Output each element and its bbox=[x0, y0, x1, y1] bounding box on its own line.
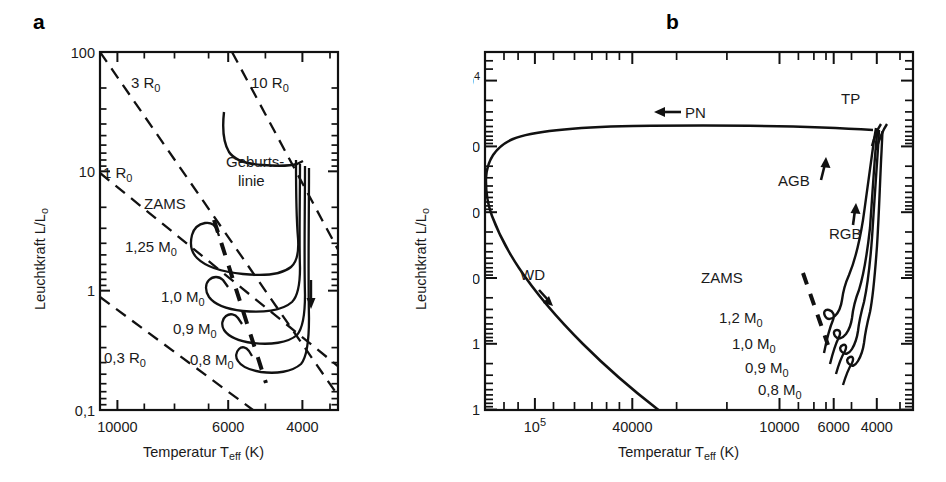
panel-b-rgb-label: RGB bbox=[829, 225, 862, 242]
panel-b: b bbox=[473, 0, 946, 482]
panel-b-xtick-4000: 4000 bbox=[861, 419, 893, 435]
panel-a-yaxis-title: Leuchtkraft L/Lo bbox=[32, 208, 50, 310]
panel-b-ytick-100: 100 bbox=[473, 205, 480, 221]
panel-a-xaxis-title-main: Temperatur T bbox=[143, 444, 229, 460]
panel-a-tick-labels: 100 10 1 0,1 10000 6000 4000 bbox=[71, 45, 319, 435]
figure-root: a bbox=[0, 0, 946, 482]
radius-line-10r-label: 10 R0 bbox=[251, 74, 289, 94]
panel-a-ytick-10: 10 bbox=[79, 164, 95, 180]
panel-b-annotations: PN WD TP AGB RGB ZAMS 1,2 M0 1,0 M0 0,9 … bbox=[520, 90, 862, 401]
panel-b-ytick-1: 1 bbox=[473, 336, 480, 352]
panel-a-mass-label-125: 1,25 M0 bbox=[125, 238, 177, 258]
panel-b-xtick-6000: 6000 bbox=[818, 419, 850, 435]
panel-b-ytick-1000: 1000 bbox=[473, 139, 480, 155]
panel-a-xaxis-title-unit: (K) bbox=[245, 444, 264, 460]
panel-b-xtick-40000: 40000 bbox=[612, 419, 652, 435]
panel-b-tp-label: TP bbox=[841, 90, 860, 107]
panel-b-yaxis-title: Leuchtkraft L/Lo bbox=[413, 208, 431, 310]
radius-line-03r-label: 0,3 R0 bbox=[104, 349, 146, 369]
birthline-label-line2: linie bbox=[238, 172, 265, 189]
radius-line-10r-path bbox=[232, 52, 424, 410]
panel-b-rgb-arrow bbox=[851, 203, 861, 225]
panel-b-ytick-10000: 104 bbox=[473, 70, 480, 89]
panel-a-plot: 100 10 1 0,1 10000 6000 4000 3 R0 10 R0 … bbox=[0, 0, 473, 482]
radius-line-1r-label: 1 R0 bbox=[103, 164, 132, 184]
panel-b-xtick-10000: 10000 bbox=[759, 419, 799, 435]
panel-a-xaxis-title-sub: eff bbox=[229, 450, 241, 462]
panel-b-agb-label: AGB bbox=[778, 172, 810, 189]
panel-a-xtick-4000: 4000 bbox=[286, 419, 318, 435]
panel-a-ytick-100: 100 bbox=[71, 45, 95, 61]
panel-b-xaxis-title-unit: (K) bbox=[720, 444, 739, 460]
panel-b-x-major-ticks bbox=[535, 52, 877, 410]
panel-b-ytick-01: 0,1 bbox=[473, 402, 480, 418]
panel-a-xaxis-title: Temperatur Teff (K) bbox=[143, 444, 264, 462]
panel-b-pn-arrow bbox=[654, 107, 681, 117]
panel-b-xaxis-title: Temperatur Teff (K) bbox=[618, 444, 739, 462]
panel-a-mass-label-10: 1,0 M0 bbox=[161, 288, 205, 308]
panel-b-yaxis-title-main: Leuchtkraft L/L bbox=[413, 214, 429, 310]
panel-b-ytick-10: 10 bbox=[473, 271, 480, 287]
panel-b-xaxis-title-main: Temperatur T bbox=[618, 444, 704, 460]
panel-b-plot: 104 1000 100 10 1 0,1 105 40000 10000 60… bbox=[473, 0, 946, 482]
panel-b-zams-label: ZAMS bbox=[701, 269, 743, 286]
panel-b-wd-label: WD bbox=[520, 266, 545, 283]
radius-line-3r-label: 3 R0 bbox=[131, 74, 160, 94]
panel-b-zams-line bbox=[803, 273, 828, 345]
panel-a-annotations: 3 R0 10 R0 1 R0 0,3 R0 ZAMS Geburts- lin… bbox=[103, 74, 289, 371]
birthline-label-line1: Geburts- bbox=[226, 153, 284, 170]
panel-b-yaxis-title-sub: o bbox=[419, 208, 431, 214]
panel-a-zams-label: ZAMS bbox=[144, 195, 186, 212]
panel-a-mass-label-08: 0,8 M0 bbox=[190, 351, 234, 371]
panel-a-xtick-6000: 6000 bbox=[212, 419, 244, 435]
panel-b-mass-label-09: 0,9 M0 bbox=[745, 359, 789, 379]
panel-a-xtick-10000: 10000 bbox=[97, 419, 137, 435]
panel-a-ytick-01: 0,1 bbox=[75, 403, 95, 419]
panel-a-yaxis-title-sub: o bbox=[38, 208, 50, 214]
panel-a-mass-tracks bbox=[191, 160, 309, 373]
panel-b-mass-tracks bbox=[824, 124, 887, 385]
panel-a-ytick-1: 1 bbox=[87, 283, 95, 299]
track-0-9-m0 bbox=[222, 166, 305, 344]
panel-b-xaxis-title-sub: eff bbox=[704, 450, 716, 462]
panel-b-pn-label: PN bbox=[685, 104, 706, 121]
panel-a-mass-label-09: 0,9 M0 bbox=[173, 320, 217, 340]
panel-b-mass-label-10: 1,0 M0 bbox=[732, 335, 776, 355]
panel-b-xtick-1e5: 105 bbox=[524, 416, 546, 435]
panel-b-agb-arrow bbox=[821, 157, 831, 180]
panel-b-mass-label-12: 1,2 M0 bbox=[719, 309, 763, 329]
panel-a: a bbox=[0, 0, 473, 482]
panel-a-radius-lines bbox=[100, 52, 424, 410]
panel-a-yaxis-title-main: Leuchtkraft L/L bbox=[32, 214, 48, 310]
